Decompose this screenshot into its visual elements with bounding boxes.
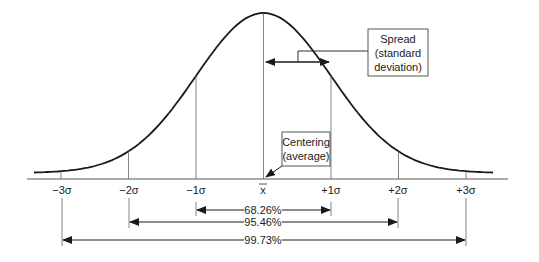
spread-line-3: deviation) xyxy=(374,61,422,73)
tick-label-minus-2: −2σ xyxy=(119,184,139,196)
tick-label-mean: x xyxy=(260,184,266,196)
interval-68: 68.26% xyxy=(197,204,330,216)
interval-68-label: 68.26% xyxy=(244,204,282,216)
spread-callout: Spread (standard deviation) xyxy=(368,29,428,76)
normal-distribution-chart: −3σ −2σ −1σ x +1σ +2σ +3σ 68.26% 95.46% … xyxy=(0,0,539,262)
centering-callout: Centering (average) xyxy=(266,132,330,177)
x-tick-labels: −3σ −2σ −1σ x +1σ +2σ +3σ xyxy=(52,184,476,196)
interval-99-label: 99.73% xyxy=(244,234,282,246)
interval-95: 95.46% xyxy=(130,216,397,228)
tick-label-minus-1: −1σ xyxy=(186,184,206,196)
tick-label-plus-2: +2σ xyxy=(388,184,408,196)
spread-line-1: Spread xyxy=(380,33,415,45)
centering-line-1: Centering xyxy=(282,136,330,148)
interval-99: 99.73% xyxy=(63,234,465,246)
tick-label-plus-3: +3σ xyxy=(456,184,476,196)
centering-line-2: (average) xyxy=(282,150,329,162)
tick-label-minus-3: −3σ xyxy=(52,184,72,196)
spread-line-2: (standard xyxy=(375,47,421,59)
tick-label-plus-1: +1σ xyxy=(321,184,341,196)
interval-95-label: 95.46% xyxy=(244,216,282,228)
